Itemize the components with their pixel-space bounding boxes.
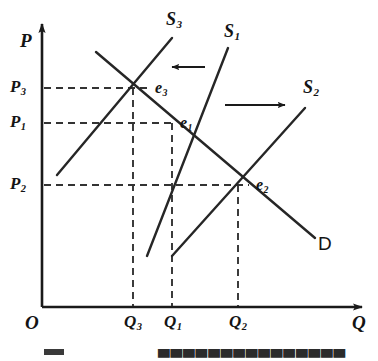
curve-label-s2-base: S <box>303 77 313 97</box>
quantity-tick-q1-base: Q <box>164 312 176 331</box>
equilibrium-label-e1-sub: 1 <box>188 122 193 133</box>
curve-label-s1: S1 <box>224 22 240 40</box>
quantity-tick-q1-sub: 1 <box>177 321 182 332</box>
price-tick-p3-sub: 3 <box>21 86 26 97</box>
price-tick-p2-sub: 2 <box>21 183 26 194</box>
figure-caption-glyph-row: ███████████████ <box>0 349 378 358</box>
diagram-canvas <box>0 0 378 361</box>
equilibrium-label-e2: e2 <box>256 177 268 193</box>
equilibrium-label-e1: e1 <box>180 115 192 131</box>
curve-label-s2-sub: 2 <box>313 86 319 98</box>
x-axis-label: Q <box>352 313 366 332</box>
price-tick-p2-base: P <box>10 174 20 193</box>
quantity-tick-q2-base: Q <box>229 312 241 331</box>
equilibrium-label-e2-base: e <box>256 176 263 193</box>
quantity-tick-q2: Q2 <box>229 313 247 330</box>
figure-caption-clipped: ███████████████ <box>0 349 378 361</box>
equilibrium-label-e1-base: e <box>180 114 187 131</box>
curves <box>57 38 315 256</box>
curve-label-d: D <box>318 234 332 253</box>
price-tick-p3-base: P <box>10 77 20 96</box>
equilibrium-label-e3-base: e <box>155 79 162 96</box>
price-guide-lines <box>44 88 249 185</box>
quantity-tick-q3: Q3 <box>124 313 142 330</box>
caption-marker <box>44 349 64 355</box>
price-tick-p1: P1 <box>10 113 26 130</box>
origin-label: O <box>25 313 39 332</box>
quantity-tick-q1: Q1 <box>164 313 182 330</box>
price-tick-p1-base: P <box>10 112 20 131</box>
curve-label-s3-sub: 3 <box>176 18 182 30</box>
price-tick-p2: P2 <box>10 175 26 192</box>
shift-arrows <box>172 67 285 105</box>
supply-demand-figure: P Q O P3 P1 P2 Q3 Q1 Q2 S3 S1 S2 D e3 e1… <box>0 0 378 361</box>
supply-curve-S3 <box>57 38 172 175</box>
price-tick-p3: P3 <box>10 78 26 95</box>
curve-label-s1-base: S <box>224 21 234 41</box>
quantity-tick-q3-base: Q <box>124 312 136 331</box>
quantity-tick-q2-sub: 2 <box>242 321 247 332</box>
curve-label-s3: S3 <box>166 10 182 28</box>
curve-label-s3-base: S <box>166 9 176 29</box>
quantity-tick-q3-sub: 3 <box>137 321 142 332</box>
y-axis-label: P <box>20 31 32 50</box>
equilibrium-label-e2-sub: 2 <box>264 184 269 195</box>
demand-curve-D <box>96 52 315 238</box>
equilibrium-label-e3: e3 <box>155 80 167 96</box>
equilibrium-label-e3-sub: 3 <box>163 87 168 98</box>
curve-label-s2: S2 <box>303 78 319 96</box>
curve-label-s1-sub: 1 <box>234 30 240 42</box>
price-tick-p1-sub: 1 <box>21 121 26 132</box>
